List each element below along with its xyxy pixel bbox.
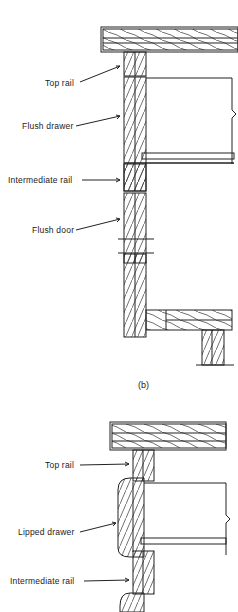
cabinet-section-diagram: [0, 0, 238, 612]
label-intermediate-rail-c: Intermediate rail: [10, 576, 74, 586]
figure-c-drawing: [80, 422, 230, 612]
label-flush-door: Flush door: [32, 225, 74, 235]
label-top-rail-c: Top rail: [45, 460, 74, 470]
label-top-rail-b: Top rail: [45, 78, 74, 88]
label-flush-drawer: Flush drawer: [22, 121, 74, 131]
caption-b: (b): [138, 380, 149, 390]
label-intermediate-rail-b: Intermediate rail: [8, 175, 72, 185]
label-lipped-drawer: Lipped drawer: [18, 527, 74, 537]
figure-b-drawing: [76, 27, 238, 365]
